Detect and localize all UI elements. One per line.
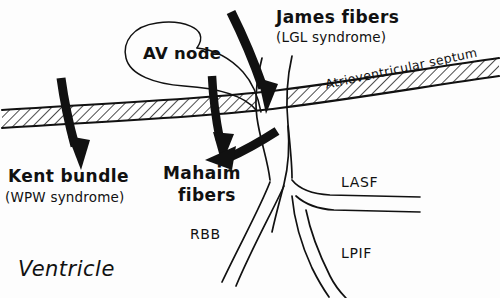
lpif-label: LPIF bbox=[341, 246, 372, 262]
kent-bundle-sublabel: (WPW syndrome) bbox=[5, 190, 125, 205]
av-node-label: AV node bbox=[143, 45, 221, 63]
lasf-label: LASF bbox=[341, 175, 378, 191]
diagram-canvas bbox=[0, 0, 500, 298]
conduction-pathways-figure: James fibers (LGL syndrome) AV node Atri… bbox=[0, 0, 500, 298]
rbb-label: RBB bbox=[190, 227, 221, 243]
ventricle-label: Ventricle bbox=[18, 258, 115, 282]
mahaim-fibers-label-line1: Mahaim bbox=[163, 164, 241, 183]
lpif-wall-right bbox=[306, 210, 346, 298]
james-fibers-label: James fibers bbox=[276, 8, 399, 27]
kent-bundle-label: Kent bundle bbox=[8, 167, 129, 186]
lasf-wall-bottom bbox=[296, 196, 420, 212]
james-fibers-sublabel: (LGL syndrome) bbox=[276, 30, 386, 45]
mahaim-fibers-label-line2: fibers bbox=[178, 186, 236, 205]
rbb-wall-right bbox=[236, 186, 284, 286]
lpif-wall-left bbox=[292, 196, 329, 297]
